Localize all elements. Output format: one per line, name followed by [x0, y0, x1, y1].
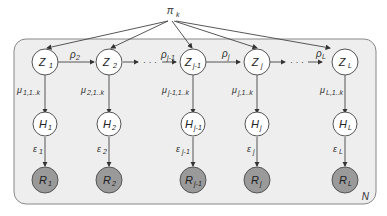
- svg-text:j: j: [260, 62, 263, 70]
- svg-text:H: H: [251, 118, 259, 130]
- svg-text:Z: Z: [184, 56, 193, 68]
- svg-text:Z: Z: [338, 56, 347, 68]
- svg-text:R: R: [185, 174, 193, 186]
- svg-text:1: 1: [48, 124, 52, 131]
- ellipsis-1: · · ·: [143, 57, 157, 67]
- svg-text:π: π: [167, 5, 174, 16]
- mu-label-j-1: μ: [161, 85, 167, 95]
- svg-text:R: R: [103, 174, 111, 186]
- svg-text:Z: Z: [38, 56, 47, 68]
- svg-text:2: 2: [75, 54, 80, 61]
- svg-text:L: L: [348, 124, 352, 131]
- plate-label: N: [362, 191, 370, 202]
- ellipsis-2: · · ·: [290, 57, 304, 67]
- svg-text:j: j: [259, 124, 262, 132]
- svg-text:H: H: [339, 118, 347, 130]
- svg-text:j,1..k: j,1..k: [237, 89, 253, 97]
- svg-text:k: k: [176, 11, 180, 18]
- svg-text:2: 2: [112, 62, 117, 69]
- svg-text:L: L: [322, 53, 326, 60]
- svg-text:j-1,1..k: j-1,1..k: [167, 89, 190, 97]
- mu-label-2: μ: [80, 85, 86, 95]
- svg-text:2,1..k: 2,1..k: [86, 89, 105, 96]
- svg-text:H: H: [103, 118, 111, 130]
- svg-text:1,1..k: 1,1..k: [23, 89, 41, 96]
- svg-text:j-1: j-1: [181, 148, 190, 156]
- svg-text:1: 1: [49, 62, 53, 69]
- mu-label-j: μ: [231, 85, 237, 95]
- svg-text:j: j: [252, 148, 255, 156]
- svg-text:j: j: [227, 53, 230, 61]
- svg-text:2: 2: [111, 124, 116, 131]
- svg-text:L: L: [339, 148, 343, 155]
- graphical-model-diagram: N π k · · · · · · ρ 2 ρ j-1 ρ j ρ L: [0, 0, 387, 216]
- svg-text:2: 2: [111, 180, 116, 187]
- svg-text:1: 1: [39, 148, 43, 155]
- svg-text:2: 2: [102, 148, 107, 155]
- svg-text:H: H: [39, 118, 47, 130]
- svg-text:Z: Z: [251, 56, 260, 68]
- svg-text:L,1..k: L,1..k: [326, 89, 344, 96]
- svg-text:H: H: [185, 118, 193, 130]
- svg-text:L: L: [348, 62, 352, 69]
- svg-text:j-1: j-1: [193, 124, 202, 132]
- svg-text:ρ: ρ: [221, 48, 228, 59]
- svg-text:1: 1: [48, 180, 52, 187]
- svg-text:ρ: ρ: [315, 48, 322, 59]
- node-Rj-1: [180, 167, 206, 193]
- svg-text:j-1: j-1: [166, 54, 175, 62]
- svg-text:L: L: [348, 180, 352, 187]
- svg-text:R: R: [39, 174, 47, 186]
- svg-text:R: R: [251, 174, 259, 186]
- root-node-pi-k: π k: [167, 5, 180, 18]
- svg-text:Z: Z: [102, 56, 111, 68]
- svg-text:j: j: [259, 180, 262, 188]
- mu-label-L: μ: [319, 85, 325, 95]
- svg-text:j-1: j-1: [193, 180, 202, 188]
- mu-label-1: μ: [16, 85, 22, 95]
- svg-text:ρ: ρ: [160, 49, 167, 60]
- svg-text:j-1: j-1: [192, 62, 201, 70]
- svg-text:ρ: ρ: [69, 49, 76, 60]
- svg-text:R: R: [339, 174, 347, 186]
